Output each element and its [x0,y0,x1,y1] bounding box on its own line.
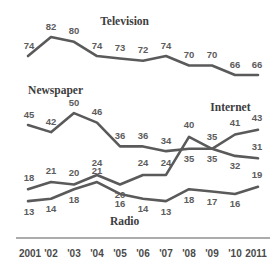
series-label-television: Television [100,15,149,27]
point-label: 35 [184,153,195,164]
point-label: 70 [184,49,195,60]
point-label: 70 [207,49,218,60]
point-label: 18 [69,194,80,205]
x-tick-label: '06 [136,248,150,259]
x-tick-label: '02 [44,248,58,259]
point-label: 36 [138,130,149,141]
point-label: 16 [115,198,126,209]
point-label: 46 [92,106,103,117]
x-tick-label: 2001 [19,248,42,259]
point-label: 18 [24,172,35,183]
point-label: 74 [24,40,35,51]
series-label-radio: Radio [110,215,140,227]
point-label: 82 [46,21,57,32]
x-tick-label: '10 [228,248,242,259]
point-label: 72 [138,44,149,55]
point-label: 73 [115,42,126,53]
x-tick-label: '07 [159,248,173,259]
point-value-labels-group: 7482807473727470706666454250463636343535… [24,21,263,217]
point-label: 74 [161,40,172,51]
point-label: 14 [46,203,57,214]
point-label: 36 [115,130,126,141]
point-label: 40 [184,119,195,130]
point-label: 24 [138,157,149,168]
series-label-newspaper: Newspaper [28,84,83,97]
point-label: 13 [24,206,35,217]
point-label: 21 [92,165,103,176]
x-tick-label: 2011 [245,248,267,259]
series-line-television [28,37,258,75]
point-label: 14 [138,203,149,214]
point-label: 34 [161,135,172,146]
x-tick-label: '08 [182,248,196,259]
point-label: 18 [184,194,195,205]
series-label-internet: Internet [210,101,250,113]
x-tick-label: '04 [90,248,104,259]
point-label: 41 [230,117,241,128]
x-tick-label: '03 [67,248,81,259]
point-label: 13 [161,206,172,217]
point-label: 35 [207,131,218,142]
point-label: 66 [252,59,263,70]
series-lines-group [28,37,258,201]
point-label: 17 [207,196,218,207]
point-label: 19 [252,169,263,180]
point-label: 21 [46,165,57,176]
x-axis-tick-labels-group: 2001'02'03'04'05'06'07'08'09'102011 [19,248,267,259]
point-label: 66 [230,59,241,70]
point-label: 45 [24,109,35,120]
point-label: 32 [230,160,241,171]
point-label: 31 [252,141,263,152]
point-label: 20 [69,167,80,178]
x-tick-label: '09 [205,248,219,259]
point-label: 74 [92,40,103,51]
point-label: 50 [69,97,80,108]
point-label: 43 [252,112,263,123]
chart-container: 7482807473727470706666454250463636343535… [0,0,280,272]
point-label: 24 [161,157,172,168]
x-tick-label: '05 [113,248,127,259]
point-label: 35 [207,153,218,164]
point-label: 16 [230,198,241,209]
point-label: 42 [46,116,57,127]
point-label: 80 [69,25,80,36]
series-line-radio [28,182,258,201]
line-chart: 7482807473727470706666454250463636343535… [0,0,280,272]
